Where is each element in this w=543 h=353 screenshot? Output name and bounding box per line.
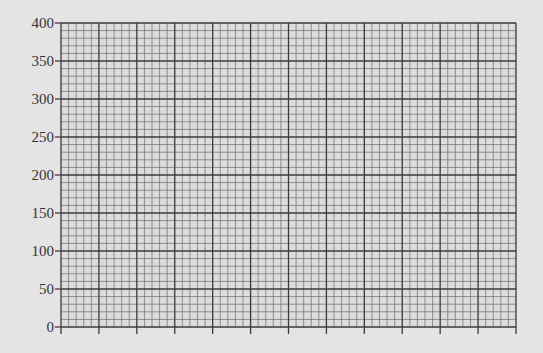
graph-paper-chart: 050100150200250300350400 bbox=[0, 0, 543, 353]
y-tick-label: 300 bbox=[32, 91, 55, 107]
y-tick-label: 0 bbox=[47, 319, 55, 335]
y-axis: 050100150200250300350400 bbox=[32, 15, 62, 335]
y-tick-label: 400 bbox=[32, 15, 55, 31]
y-tick-label: 50 bbox=[39, 281, 54, 297]
y-tick-label: 150 bbox=[32, 205, 55, 221]
y-tick-label: 250 bbox=[32, 129, 55, 145]
x-axis bbox=[61, 327, 516, 334]
y-tick-label: 350 bbox=[32, 53, 55, 69]
y-tick-label: 200 bbox=[32, 167, 55, 183]
y-tick-label: 100 bbox=[32, 243, 55, 259]
